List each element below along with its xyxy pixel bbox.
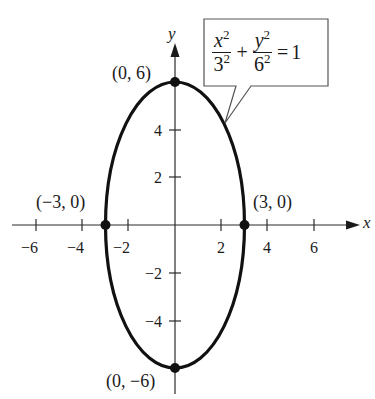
point-label-left: (−3, 0): [36, 193, 85, 211]
equation-rhs: 1: [291, 41, 301, 64]
fraction-x: x2 32: [212, 30, 231, 75]
numerator-var-y: y: [255, 29, 264, 51]
y-tick-label: −4: [145, 314, 162, 330]
x-tick-label: −6: [21, 240, 38, 256]
point-label-right: (3, 0): [253, 193, 292, 211]
denominator-base: 3: [213, 53, 223, 75]
equation-label: x2 32 + y2 62 = 1: [210, 22, 326, 82]
x-tick-label: 2: [217, 240, 225, 256]
denominator-base: 6: [254, 53, 264, 75]
point-label-bottom: (0, −6): [106, 372, 155, 390]
vertex-bottom-point: [170, 363, 180, 373]
x-axis-arrow-icon: [346, 221, 360, 230]
exponent: 2: [223, 51, 230, 66]
plus-sign: +: [236, 41, 247, 64]
exponent: 2: [264, 51, 271, 66]
x-tick-label: −4: [67, 240, 84, 256]
x-tick-label: 6: [310, 240, 318, 256]
covertex-right-point: [240, 220, 250, 230]
numerator-var-x: x: [214, 29, 223, 51]
y-tick-label: 4: [154, 123, 162, 139]
y-axis-arrow-icon: [171, 43, 180, 57]
equals-sign: =: [277, 41, 288, 64]
x-axis: [12, 219, 360, 231]
y-tick-label: 2: [154, 170, 162, 186]
fraction-y: y2 62: [253, 30, 272, 75]
point-label-top: (0, 6): [112, 64, 151, 82]
y-tick-label: −2: [145, 266, 162, 282]
exponent: 2: [264, 27, 271, 42]
y-axis: [169, 43, 181, 394]
x-tick-label: −2: [113, 240, 130, 256]
x-tick-label: 4: [263, 240, 271, 256]
exponent: 2: [223, 27, 230, 42]
x-axis-label: x: [363, 214, 371, 231]
covertex-left-point: [101, 220, 111, 230]
vertex-top-point: [170, 77, 180, 87]
y-axis-label: y: [168, 25, 176, 42]
